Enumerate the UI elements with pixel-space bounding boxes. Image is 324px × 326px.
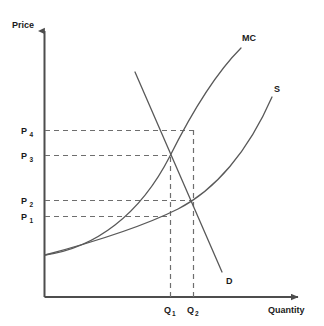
svg-text:4: 4 (30, 131, 34, 138)
svg-text:P: P (21, 151, 27, 161)
curve-d (135, 72, 222, 272)
y-axis-title: Price (12, 20, 34, 30)
curves-group (45, 48, 272, 272)
x-tick-q2: Q 2 (187, 305, 199, 317)
svg-text:1: 1 (172, 310, 176, 317)
svg-text:P: P (21, 196, 27, 206)
svg-text:1: 1 (30, 217, 34, 224)
economics-supply-demand-chart: Price Quantity MC S (0, 0, 324, 326)
axis-group (45, 31, 299, 297)
svg-text:Q: Q (164, 305, 171, 315)
svg-text:2: 2 (30, 201, 34, 208)
svg-text:P: P (21, 212, 27, 222)
y-tick-p3: P 3 (21, 151, 34, 163)
x-axis-title: Quantity (268, 305, 305, 315)
curve-label-mc: MC (242, 33, 256, 43)
curve-label-d: D (226, 276, 233, 286)
svg-text:3: 3 (30, 156, 34, 163)
y-tick-p1: P 1 (21, 212, 34, 224)
y-tick-p2: P 2 (21, 196, 34, 208)
y-tick-p4: P 4 (21, 126, 34, 138)
svg-text:P: P (21, 126, 27, 136)
chart-canvas: Price Quantity MC S (0, 0, 324, 326)
curve-label-s: S (274, 84, 280, 94)
y-tick-labels-group: P 4 P 3 P 2 P 1 (21, 126, 34, 224)
x-tick-q1: Q 1 (164, 305, 176, 317)
svg-text:2: 2 (195, 310, 199, 317)
svg-text:Q: Q (187, 305, 194, 315)
x-tick-labels-group: Q 1 Q 2 (164, 305, 199, 317)
